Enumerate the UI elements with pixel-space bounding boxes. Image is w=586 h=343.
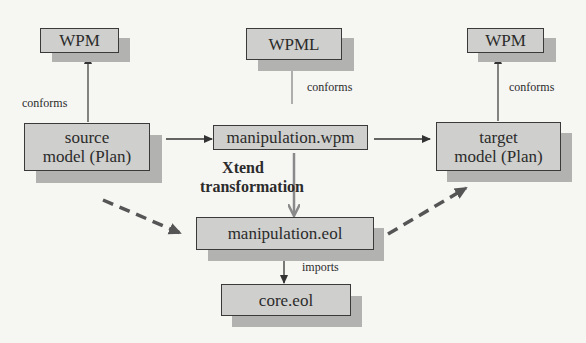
wpm-left-node: WPM xyxy=(40,28,119,53)
xtend-label-line2: transformation xyxy=(200,177,286,196)
manipulation-wpm-label: manipulation.wpm xyxy=(227,128,355,147)
manipulation-eol-label: manipulation.eol xyxy=(228,224,343,243)
core-eol-node: core.eol xyxy=(221,284,351,316)
manipulation-wpm-node: manipulation.wpm xyxy=(213,125,368,150)
wpml-label: WPML xyxy=(269,35,320,54)
target-model-line2: model (Plan) xyxy=(454,147,542,166)
dashed-arrow-to-eol xyxy=(103,200,180,233)
wpml-node: WPML xyxy=(246,28,342,60)
source-model-line1: source xyxy=(65,128,109,147)
wpm-right-node: WPM xyxy=(467,28,544,53)
target-model-line1: target xyxy=(479,128,517,147)
dashed-arrow-to-target xyxy=(388,188,466,234)
wpm-left-label: WPM xyxy=(59,31,100,50)
core-eol-label: core.eol xyxy=(259,291,313,310)
xtend-transformation-label: Xtend transformation xyxy=(200,158,286,196)
conforms-label-middle: conforms xyxy=(307,80,352,95)
source-model-node: source model (Plan) xyxy=(24,123,150,171)
wpm-right-label: WPM xyxy=(485,31,526,50)
target-model-node: target model (Plan) xyxy=(436,122,561,171)
conforms-label-left: conforms xyxy=(22,96,67,111)
source-model-line2: model (Plan) xyxy=(43,147,131,166)
conforms-label-right: conforms xyxy=(509,80,554,95)
manipulation-eol-node: manipulation.eol xyxy=(196,217,374,250)
xtend-label-line1: Xtend xyxy=(200,158,286,177)
imports-label: imports xyxy=(302,260,339,275)
